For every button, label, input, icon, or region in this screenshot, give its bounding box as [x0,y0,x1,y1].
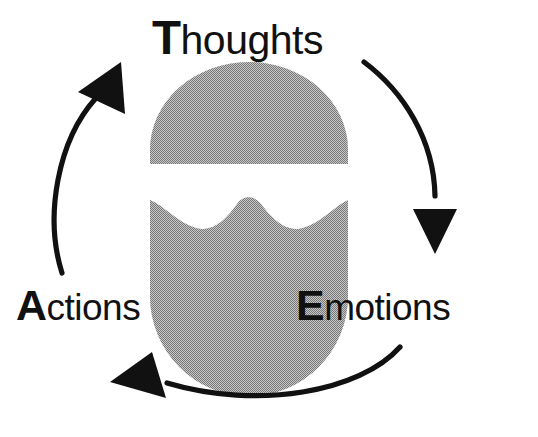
node-initial-emotions: E [296,281,324,329]
node-initial-thoughts: T [152,11,181,64]
node-rest-actions: ctions [47,287,141,328]
arrow-actions-to-thoughts [54,62,125,273]
node-rest-thoughts: houghts [181,17,323,63]
head-skull-cap [150,62,348,164]
node-label-actions: Actions [16,284,140,327]
cycle-diagram-graphic [0,0,538,437]
diagram-canvas: Thoughts Actions Emotions [0,0,538,437]
node-initial-actions: A [16,281,47,329]
arrow-thoughts-to-emotions [364,62,457,254]
node-rest-emotions: motions [324,287,450,328]
node-label-emotions: Emotions [296,284,450,327]
node-label-thoughts: Thoughts [152,14,323,62]
